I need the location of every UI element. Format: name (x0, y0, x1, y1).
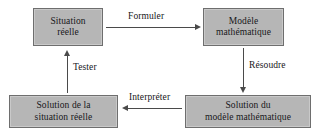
edge-label-tester: Tester (73, 62, 97, 72)
edge-label-resoudre: Résoudre (249, 60, 286, 70)
node-solution-situation-line-2: situation réelle (35, 112, 93, 124)
arrow-formuler (106, 27, 201, 28)
node-situation-reelle-line-1: Situation (50, 16, 85, 28)
arrow-tester (67, 50, 68, 93)
arrow-resoudre (243, 48, 244, 93)
node-situation-reelle-line-2: réelle (57, 27, 79, 39)
arrow-tester-head-up-icon (64, 50, 70, 56)
node-solution-modele-line-1: Solution du (225, 100, 270, 112)
node-solution-situation-reelle: Solution de la situation réelle (9, 95, 118, 128)
arrow-interpreter-shaft (128, 108, 182, 109)
edge-label-interpreter: Interpréter (129, 92, 170, 102)
modeling-cycle-diagram: Situation réelle Modèle mathématique Sol… (0, 0, 317, 135)
arrow-resoudre-head-down-icon (240, 87, 246, 93)
arrow-tester-shaft (67, 56, 68, 93)
node-solution-situation-line-1: Solution de la (36, 100, 90, 112)
node-situation-reelle: Situation réelle (33, 8, 103, 46)
node-modele-mathematique-line-2: mathématique (216, 27, 271, 39)
node-solution-modele-mathematique: Solution du modèle mathématique (185, 95, 311, 128)
node-solution-modele-line-2: modèle mathématique (205, 112, 291, 124)
edge-label-formuler: Formuler (128, 11, 164, 21)
arrow-formuler-shaft (106, 27, 195, 28)
arrow-interpreter (122, 108, 182, 109)
node-modele-mathematique-line-1: Modèle (229, 16, 259, 28)
arrow-resoudre-shaft (243, 48, 244, 87)
arrow-interpreter-head-left-icon (122, 105, 128, 111)
arrow-formuler-head-right-icon (195, 24, 201, 30)
node-modele-mathematique: Modèle mathématique (203, 8, 284, 46)
